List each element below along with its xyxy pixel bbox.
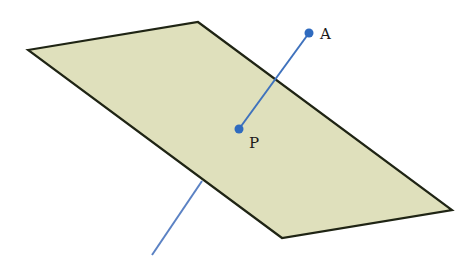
plane-line-diagram: A P <box>0 0 476 258</box>
point-p-label: P <box>249 134 259 152</box>
point-a <box>305 29 314 38</box>
line-segment-below-plane <box>152 181 202 255</box>
point-a-label: A <box>319 25 331 43</box>
point-p <box>235 125 244 134</box>
